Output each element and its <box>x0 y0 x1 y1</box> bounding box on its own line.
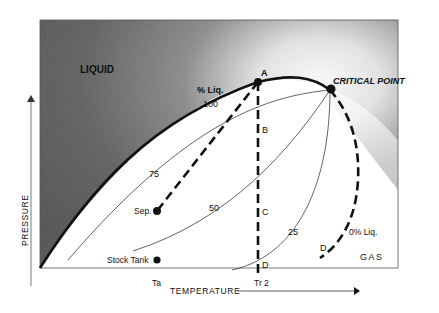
gas-region-label: GAS <box>360 252 384 262</box>
point-a <box>254 78 262 86</box>
quality-header-label: % Liq. <box>197 85 224 95</box>
quality-0-label: 0% Liq. <box>349 227 377 237</box>
quality-75-label: 75 <box>149 169 159 179</box>
y-axis <box>27 95 35 286</box>
point-d-tr2-label: D <box>262 260 269 270</box>
y-axis-label: PRESSURE <box>20 194 30 246</box>
quality-25-label: 25 <box>288 227 298 237</box>
stock-tank-point <box>153 256 160 263</box>
x-tick-ta: Ta <box>152 278 161 288</box>
x-tick-tr2: Tr 2 <box>254 278 269 288</box>
separator-point <box>153 207 161 215</box>
phase-diagram: LIQUID GAS CRITICAL POINT A B C D D Sep.… <box>0 0 439 313</box>
x-axis-label: TEMPERATURE <box>170 286 240 296</box>
stock-tank-label: Stock Tank <box>107 255 149 265</box>
liquid-region-label: LIQUID <box>80 64 114 75</box>
quality-50-label: 50 <box>209 203 219 213</box>
critical-point-label: CRITICAL POINT <box>333 76 406 86</box>
x-axis-arrow <box>237 287 360 295</box>
point-c-label: C <box>262 207 269 217</box>
point-b-label: B <box>262 125 268 135</box>
quality-100-label: 100 <box>203 99 218 109</box>
point-a-label: A <box>261 68 268 78</box>
point-d-dew-label: D <box>320 243 327 253</box>
separator-label: Sep. <box>134 206 152 216</box>
